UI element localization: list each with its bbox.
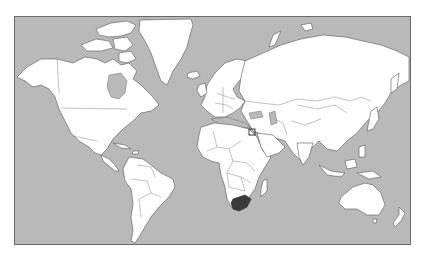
world-map: World map: [14, 16, 411, 245]
world-map-svg: [15, 17, 411, 245]
tasmania: [373, 219, 377, 223]
